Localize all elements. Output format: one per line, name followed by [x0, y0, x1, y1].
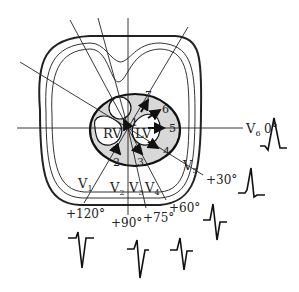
waveform-v1 — [68, 232, 94, 268]
waveform-v3 — [170, 238, 193, 270]
point-1: 1 — [131, 116, 138, 129]
angle-v4: +60° — [169, 201, 200, 215]
lead-v1-label: V1 — [77, 176, 92, 193]
angle-v2: +90° — [111, 216, 142, 230]
point-5: 5 — [169, 122, 176, 135]
lead-v3-label: V3 — [128, 180, 143, 197]
lead-v6-label: V6 — [245, 121, 260, 138]
point-4: 4 — [163, 145, 170, 158]
lead-v2-label: V2 — [109, 180, 124, 197]
point-6: 6 — [162, 103, 169, 116]
axis-line-upper-left — [20, 62, 128, 128]
lead-v5-label: V5 — [182, 158, 197, 175]
waveform-v5 — [238, 168, 265, 197]
rv-label: RV — [103, 126, 122, 141]
angle-v5: +30° — [206, 173, 237, 187]
chest-lead-diagram: RV LV 1 2 3 4 5 6 7 V6 V5 V1 V2 V3 V4 0°… — [0, 0, 299, 292]
point-7: 7 — [145, 89, 152, 102]
point-2: 2 — [113, 156, 120, 169]
point-3: 3 — [137, 156, 144, 169]
waveform-v2 — [127, 240, 149, 278]
angle-v1: +120° — [66, 207, 105, 221]
waveform-v4 — [203, 204, 227, 240]
